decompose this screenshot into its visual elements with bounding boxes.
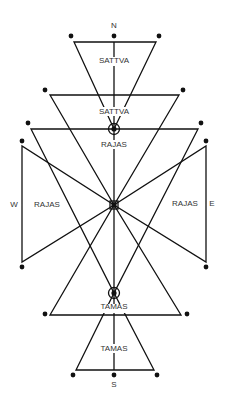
label-sattva-mid: SATTVA <box>99 107 130 116</box>
dot <box>20 265 25 270</box>
label-rajas-west: RAJAS <box>34 200 60 209</box>
dot <box>157 34 162 39</box>
gunas-diagram: N SATTVA SATTVA RAJAS W RAJAS RAJAS E TA… <box>0 0 225 404</box>
dot <box>112 373 117 378</box>
label-west: W <box>10 200 18 209</box>
dot <box>185 312 190 317</box>
label-south: S <box>111 380 116 389</box>
dot <box>199 121 204 126</box>
label-rajas-east: RAJAS <box>172 199 198 208</box>
label-east: E <box>209 199 214 208</box>
label-tamas-mid: TAMAS <box>101 302 128 311</box>
lower-circle-center <box>111 290 116 295</box>
dot <box>69 34 74 39</box>
dot <box>71 373 76 378</box>
dot <box>204 139 209 144</box>
dot <box>204 265 209 270</box>
dot <box>20 139 25 144</box>
label-sattva-top: SATTVA <box>99 56 130 65</box>
dot <box>155 373 160 378</box>
upper-circle-center <box>111 126 116 131</box>
center-square-fill <box>112 203 117 208</box>
dot <box>43 88 48 93</box>
label-rajas-top: RAJAS <box>101 140 127 149</box>
dot <box>43 312 48 317</box>
label-tamas-bottom: TAMAS <box>101 344 128 353</box>
dot <box>112 34 117 39</box>
label-north: N <box>111 21 117 30</box>
dot <box>26 121 31 126</box>
dot <box>181 88 186 93</box>
